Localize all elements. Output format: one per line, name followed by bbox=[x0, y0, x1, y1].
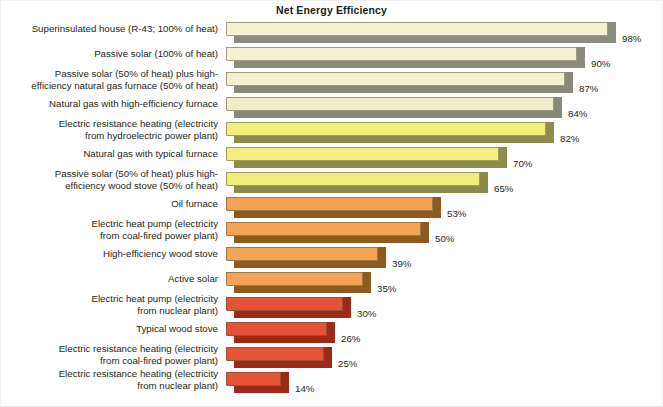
category-label: Electric resistance heating (electricity… bbox=[0, 343, 218, 366]
value-label: 30% bbox=[357, 308, 376, 319]
bar-end-cap bbox=[327, 322, 335, 336]
value-label: 53% bbox=[447, 208, 466, 219]
category-label: High-efficiency wood stove bbox=[0, 248, 218, 260]
bar-side-face bbox=[234, 336, 335, 343]
bar bbox=[226, 22, 616, 47]
net-energy-efficiency-chart: Net Energy Efficiency Superinsulated hou… bbox=[0, 0, 663, 407]
bar-side-face bbox=[234, 261, 386, 268]
value-label: 35% bbox=[377, 283, 396, 294]
bar-end-cap bbox=[546, 122, 554, 136]
bar-top-face bbox=[226, 272, 363, 286]
bar bbox=[226, 297, 351, 322]
bar bbox=[226, 272, 371, 297]
bar-side-face bbox=[234, 111, 562, 118]
bar-end-cap bbox=[363, 272, 371, 286]
bar-top-face bbox=[226, 347, 324, 361]
bar-side-face bbox=[234, 236, 429, 243]
bar-end-cap bbox=[421, 222, 429, 236]
value-label: 82% bbox=[560, 133, 579, 144]
bar-side-face bbox=[234, 136, 554, 143]
bar-side-face bbox=[234, 61, 585, 68]
chart-title: Net Energy Efficiency bbox=[0, 4, 663, 16]
bar-top-face bbox=[226, 147, 499, 161]
bar-top-face bbox=[226, 372, 281, 386]
bar-top-face bbox=[226, 47, 577, 61]
bar bbox=[226, 97, 562, 122]
bar-side-face bbox=[234, 361, 332, 368]
bar bbox=[226, 47, 585, 72]
bar bbox=[226, 197, 441, 222]
category-label: Electric resistance heating (electricity… bbox=[0, 368, 218, 391]
bar-row: Passive solar (50% of heat) plus high- e… bbox=[0, 72, 663, 97]
category-label: Passive solar (100% of heat) bbox=[0, 48, 218, 60]
category-label: Typical wood stove bbox=[0, 323, 218, 335]
value-label: 70% bbox=[513, 158, 532, 169]
bar-side-face bbox=[234, 286, 371, 293]
value-label: 98% bbox=[622, 33, 641, 44]
bar-row: Electric resistance heating (electricity… bbox=[0, 372, 663, 397]
bar-top-face bbox=[226, 247, 378, 261]
category-label: Active solar bbox=[0, 273, 218, 285]
value-label: 25% bbox=[338, 358, 357, 369]
bar bbox=[226, 372, 289, 397]
category-label: Passive solar (50% of heat) plus high- e… bbox=[0, 168, 218, 191]
bar-top-face bbox=[226, 172, 480, 186]
bar-side-face bbox=[234, 386, 289, 393]
value-label: 65% bbox=[494, 183, 513, 194]
bar-end-cap bbox=[281, 372, 289, 386]
plot-area: Superinsulated house (R-43; 100% of heat… bbox=[0, 22, 663, 382]
value-label: 26% bbox=[341, 333, 360, 344]
bar-top-face bbox=[226, 322, 327, 336]
bar bbox=[226, 322, 335, 347]
bar-side-face bbox=[234, 186, 488, 193]
category-label: Natural gas with high-efficiency furnace bbox=[0, 98, 218, 110]
bar-side-face bbox=[234, 211, 441, 218]
bar-side-face bbox=[234, 311, 351, 318]
bar-top-face bbox=[226, 297, 343, 311]
bar-end-cap bbox=[565, 72, 573, 86]
bar bbox=[226, 172, 488, 197]
category-label: Oil furnace bbox=[0, 198, 218, 210]
bar-side-face bbox=[234, 161, 507, 168]
bar bbox=[226, 347, 332, 372]
bar-end-cap bbox=[577, 47, 585, 61]
bar-end-cap bbox=[554, 97, 562, 111]
bar bbox=[226, 122, 554, 147]
bar-end-cap bbox=[324, 347, 332, 361]
bar-top-face bbox=[226, 72, 565, 86]
bar-row: Electric heat pump (electricity from nuc… bbox=[0, 297, 663, 322]
category-label: Passive solar (50% of heat) plus high- e… bbox=[0, 68, 218, 91]
bar bbox=[226, 72, 573, 97]
bar-side-face bbox=[234, 86, 573, 93]
bar-end-cap bbox=[378, 247, 386, 261]
bar-top-face bbox=[226, 222, 421, 236]
bar-top-face bbox=[226, 122, 546, 136]
bar-side-face bbox=[234, 36, 616, 43]
bar-end-cap bbox=[608, 22, 616, 36]
value-label: 90% bbox=[591, 58, 610, 69]
value-label: 50% bbox=[435, 233, 454, 244]
value-label: 84% bbox=[568, 108, 587, 119]
bar-row: Electric heat pump (electricity from coa… bbox=[0, 222, 663, 247]
value-label: 87% bbox=[579, 83, 598, 94]
category-label: Electric resistance heating (electricity… bbox=[0, 118, 218, 141]
bar-row: High-efficiency wood stove39% bbox=[0, 247, 663, 272]
bar-end-cap bbox=[499, 147, 507, 161]
frame-top-rule bbox=[0, 0, 663, 1]
bar-row: Superinsulated house (R-43; 100% of heat… bbox=[0, 22, 663, 47]
bar bbox=[226, 222, 429, 247]
bar bbox=[226, 147, 507, 172]
bar-row: Electric resistance heating (electricity… bbox=[0, 122, 663, 147]
bar-end-cap bbox=[480, 172, 488, 186]
bar bbox=[226, 247, 386, 272]
bar-end-cap bbox=[433, 197, 441, 211]
bar-top-face bbox=[226, 97, 554, 111]
category-label: Electric heat pump (electricity from coa… bbox=[0, 218, 218, 241]
value-label: 39% bbox=[392, 258, 411, 269]
value-label: 14% bbox=[295, 383, 314, 394]
bar-top-face bbox=[226, 22, 608, 36]
bar-top-face bbox=[226, 197, 433, 211]
category-label: Electric heat pump (electricity from nuc… bbox=[0, 293, 218, 316]
bar-end-cap bbox=[343, 297, 351, 311]
bar-row: Passive solar (50% of heat) plus high- e… bbox=[0, 172, 663, 197]
